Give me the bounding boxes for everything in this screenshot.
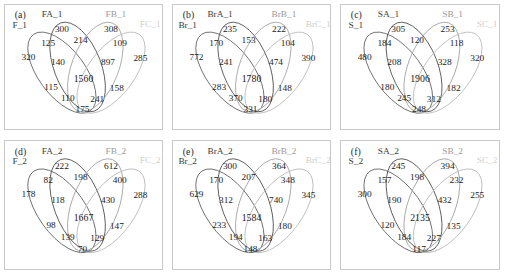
region-count-top-b: 364 (272, 161, 286, 171)
region-count-upper-right: 400 (113, 175, 127, 185)
region-count-center: 2135 (410, 212, 430, 223)
region-count-bottom-right: 241 (90, 94, 104, 104)
region-count-mid-left: 208 (387, 57, 401, 67)
region-count-upper-right: 118 (450, 38, 464, 48)
set-ellipse-0 (14, 158, 109, 264)
region-count-center: 1906 (410, 74, 430, 85)
region-count-bottom-center: 117 (412, 244, 426, 254)
region-count-mid-left: 312 (219, 195, 233, 205)
region-count-upper-right: 348 (281, 175, 295, 185)
region-count-far-left: 320 (22, 52, 36, 62)
region-count-mid-right: 897 (101, 57, 115, 67)
region-count-bottom-left: 245 (397, 93, 411, 103)
venn-panel-f: (f)S_2SA_2SB_2SC_22453941571982323001904… (336, 136, 505, 276)
set-label-1: SA_2 (378, 146, 400, 156)
region-count-bottom-left: 110 (61, 93, 75, 103)
region-count-low-left: 233 (212, 220, 226, 230)
region-count-mid-right: 430 (101, 195, 115, 205)
set-label-3: BrC_2 (306, 156, 330, 166)
region-count-center: 1667 (74, 212, 94, 223)
region-count-low-right: 182 (447, 83, 461, 93)
set-label-1: FA_1 (42, 10, 63, 20)
venn-panel-b: (b)Br_1BrA_1BrB_1BrC_1235222170153104772… (168, 0, 336, 136)
region-count-bottom-right: 227 (427, 233, 441, 243)
region-count-top-a: 305 (391, 25, 405, 35)
region-count-far-left: 480 (358, 52, 372, 62)
region-count-center: 1584 (242, 212, 262, 223)
venn-drawing: (b)Br_1BrA_1BrB_1BrC_1235222170153104772… (173, 5, 330, 129)
set-ellipse-0 (14, 21, 109, 124)
set-label-2: BrB_1 (271, 10, 296, 20)
venn-drawing: (a)F_1FA_1FB_1FC_13003081252141093201408… (5, 5, 162, 129)
region-count-mid-right: 432 (438, 195, 452, 205)
venn-drawing: (c)S_1SA_1SB_1SC_13052531841201184802083… (341, 5, 499, 129)
region-count-low-left: 98 (46, 220, 56, 230)
region-count-top-a: 245 (391, 161, 405, 171)
region-count-far-right: 285 (133, 53, 147, 63)
region-count-top-b: 222 (272, 25, 286, 35)
region-count-far-right: 255 (470, 190, 484, 200)
set-label-2: BrB_2 (271, 146, 296, 156)
region-count-upper-center: 198 (410, 172, 424, 182)
region-count-upper-right: 104 (281, 38, 295, 48)
set-label-2: FB_2 (106, 146, 127, 156)
panel-frame: (c)S_1SA_1SB_1SC_13052531841201184802083… (340, 4, 500, 130)
venn-panel-d: (d)F_2FA_2FB_2FC_22226128219840017811843… (0, 136, 168, 276)
set-label-3: FC_1 (140, 19, 161, 29)
region-count-top-b: 394 (441, 161, 455, 171)
region-count-bottom-right: 129 (90, 233, 104, 243)
region-count-far-left: 629 (190, 189, 204, 199)
region-count-low-right: 147 (110, 221, 124, 231)
region-count-bottom-right: 180 (258, 94, 272, 104)
region-count-bottom-left: 194 (229, 232, 243, 242)
set-label-3: SC_1 (477, 19, 498, 29)
region-count-bottom-center: 175 (76, 104, 90, 114)
region-count-upper-left: 184 (377, 38, 391, 48)
venn-drawing: (d)F_2FA_2FB_2FC_22226128219840017811843… (5, 141, 162, 269)
region-count-upper-left: 125 (41, 38, 55, 48)
region-count-top-b: 253 (441, 25, 455, 35)
panel-grid: (a)F_1FA_1FB_1FC_13003081252141093201408… (0, 0, 505, 276)
set-label-3: SC_2 (477, 156, 498, 166)
venn-drawing: (f)S_2SA_2SB_2SC_22453941571982323001904… (341, 141, 499, 269)
region-count-far-left: 772 (190, 52, 204, 62)
region-count-upper-right: 109 (113, 38, 127, 48)
region-count-low-left: 115 (44, 82, 58, 92)
region-count-center: 1780 (242, 74, 262, 85)
region-count-top-a: 235 (223, 25, 237, 35)
venn-figure: (a)F_1FA_1FB_1FC_13003081252141093201408… (0, 0, 505, 276)
region-count-upper-left: 170 (209, 175, 223, 185)
region-count-low-right: 180 (278, 221, 292, 231)
panel-frame: (e)Br_2BrA_2BrB_2BrC_2300364170207348629… (172, 140, 331, 270)
region-count-low-right: 148 (278, 83, 292, 93)
region-count-upper-center: 207 (242, 172, 256, 182)
region-count-mid-right: 328 (438, 57, 452, 67)
region-count-bottom-left: 139 (61, 232, 75, 242)
region-count-mid-left: 190 (387, 195, 401, 205)
set-label-2: FB_1 (106, 10, 127, 20)
region-count-bottom-left: 184 (397, 232, 411, 242)
region-count-far-right: 345 (301, 190, 315, 200)
region-count-low-left: 120 (380, 221, 394, 231)
region-count-far-left: 300 (358, 189, 372, 199)
region-count-top-b: 308 (104, 25, 118, 35)
set-ellipse-0 (182, 158, 277, 264)
region-count-mid-left: 118 (51, 195, 65, 205)
set-label-1: SA_1 (378, 10, 400, 20)
set-label-0: S_2 (349, 157, 364, 167)
region-count-top-a: 300 (55, 25, 69, 35)
region-count-bottom-right: 163 (258, 233, 272, 243)
set-label-0: Br_2 (178, 156, 197, 166)
set-ellipse-0 (351, 158, 446, 264)
venn-drawing: (e)Br_2BrA_2BrB_2BrC_2300364170207348629… (173, 141, 330, 269)
region-count-upper-center: 214 (74, 35, 88, 45)
set-label-2: SB_2 (442, 146, 463, 156)
panel-frame: (f)S_2SA_2SB_2SC_22453941571982323001904… (340, 140, 500, 270)
region-count-low-left: 283 (212, 82, 226, 92)
set-label-3: FC_2 (140, 156, 161, 166)
panel-frame: (a)F_1FA_1FB_1FC_13003081252141093201408… (4, 4, 163, 130)
set-ellipse-0 (351, 21, 446, 124)
region-count-upper-right: 232 (450, 175, 464, 185)
region-count-bottom-right: 312 (427, 94, 441, 104)
set-label-1: BrA_2 (207, 146, 233, 156)
